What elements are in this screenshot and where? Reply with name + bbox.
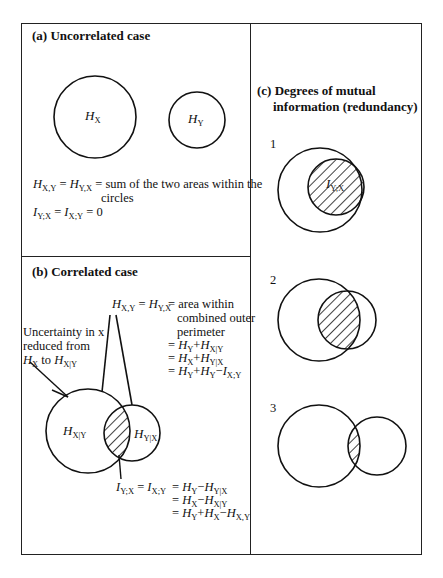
eq-mutual-info-b: IY;X = IX;Y: [116, 480, 166, 498]
case-number-2: 2: [270, 273, 276, 287]
eq-joint-entropy-a-cont: circles: [101, 191, 134, 205]
joint-desc-2: combined outer: [177, 311, 255, 325]
panel-b-title: (b) Correlated case: [32, 264, 138, 280]
label-hy: HY: [188, 111, 204, 128]
panel-c-title-2: information (redundancy): [273, 99, 418, 115]
label-mutual-info-c1: IY;X: [326, 176, 344, 193]
uncertainty-line-3: HX to HX|Y: [23, 353, 77, 371]
eq-mutual-info-a: IY;X = IX;Y = 0: [33, 205, 103, 223]
panel-c-title-1: (c) Degrees of mutual: [257, 83, 376, 99]
eq-joint-entropy-a: HX,Y = HY,X = sum of the two areas withi…: [33, 177, 262, 195]
label-hx: HX: [85, 108, 101, 125]
label-hy-given-x: HY|X: [134, 426, 157, 443]
joint-desc-1: = area within: [168, 297, 234, 311]
vertical-divider: [250, 23, 251, 555]
case-number-3: 3: [270, 401, 276, 415]
eq-joint-entropy-b: HX,Y = HY,X: [112, 297, 171, 315]
joint-desc-3: perimeter: [177, 325, 225, 339]
uncertainty-line-1: Uncertainty in x: [23, 325, 104, 339]
horizontal-divider: [21, 256, 251, 257]
uncertainty-line-2: reduced from: [23, 339, 90, 353]
mi-line-3: = HY+HX−HX,Y: [172, 506, 250, 524]
label-hx-given-y: HX|Y: [63, 423, 86, 440]
panel-a-title: (a) Uncorrelated case: [32, 28, 150, 44]
joint-line-3: = HY+HY−IX;Y: [168, 364, 241, 382]
case-number-1: 1: [270, 137, 276, 151]
